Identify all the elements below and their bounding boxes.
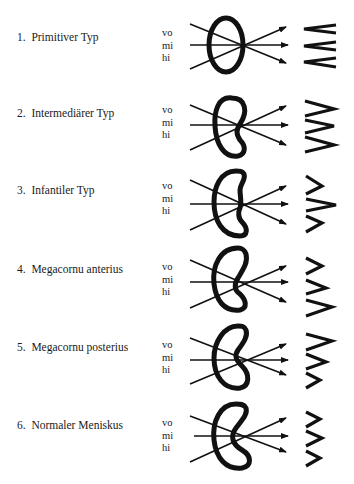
- direction-labels: vo mi hi: [162, 104, 173, 142]
- meniscus-shape: [214, 248, 247, 310]
- row-label: 5. Megacornu posterius: [17, 341, 128, 353]
- zigzag-diagram: [304, 25, 336, 67]
- zigzag-diagram: [306, 412, 322, 466]
- direction-labels: vo mi hi: [162, 417, 173, 455]
- zigzag-diagram: [306, 258, 332, 316]
- direction-labels: vo mi hi: [162, 180, 173, 218]
- meniscus-diagram: [180, 322, 354, 400]
- row-primitiver-typ: 1. Primitiver Typ vo mi hi: [0, 12, 354, 90]
- direction-labels: vo mi hi: [162, 261, 173, 299]
- zigzag-diagram: [306, 176, 336, 232]
- row-intermediaerer-typ: 2. Intermediärer Typ vo mi hi: [0, 90, 354, 168]
- zigzag-diagram: [305, 101, 334, 152]
- meniscus-shape: [214, 326, 248, 388]
- direction-labels: vo mi hi: [162, 339, 173, 377]
- zigzag-diagram: [306, 334, 332, 388]
- meniscus-diagram: [180, 12, 354, 90]
- row-megacornu-posterius: 5. Megacornu posterius vo mi hi: [0, 322, 354, 400]
- meniscus-diagram: [180, 90, 354, 168]
- row-normaler-meniskus: 6. Normaler Meniskus vo mi hi: [0, 398, 354, 476]
- direction-labels: vo mi hi: [162, 27, 173, 65]
- meniscus-diagram: [180, 398, 354, 476]
- row-infantiler-typ: 3. Infantiler Typ vo mi hi: [0, 166, 354, 244]
- row-label: 3. Infantiler Typ: [17, 184, 95, 196]
- row-label: 1. Primitiver Typ: [17, 31, 98, 43]
- row-label: 6. Normaler Meniskus: [17, 419, 123, 431]
- row-label: 4. Megacornu anterius: [17, 263, 123, 275]
- row-megacornu-anterius: 4. Megacornu anterius vo mi hi: [0, 244, 354, 322]
- meniscus-diagram: [180, 166, 354, 244]
- meniscus-diagram: [180, 244, 354, 322]
- row-label: 2. Intermediärer Typ: [17, 107, 114, 119]
